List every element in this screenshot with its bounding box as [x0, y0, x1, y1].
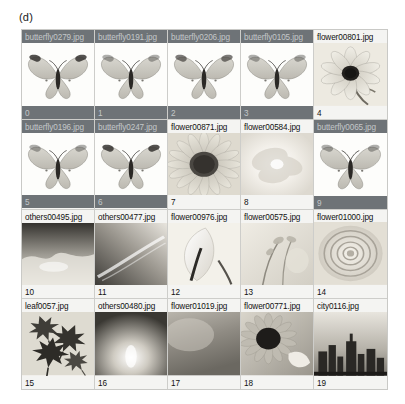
- thumbnail-index: 1: [95, 106, 167, 119]
- thumbnail-index: 15: [22, 376, 94, 389]
- thumbnail-index: 10: [22, 285, 94, 298]
- thumbnail-filename: flower00575.jpg: [241, 210, 313, 223]
- thumbnail-index: 6: [95, 195, 167, 208]
- thumbnail-cell[interactable]: others00495.jpg 10: [22, 210, 95, 300]
- thumbnail-index: 16: [95, 376, 167, 389]
- thumbnail-image-flower[interactable]: [314, 222, 387, 285]
- thumbnail-image-flower[interactable]: [241, 223, 313, 286]
- thumbnail-index: 3: [241, 106, 313, 119]
- thumbnail-cell[interactable]: flower00871.jpg 7: [168, 120, 241, 210]
- thumbnail-cell[interactable]: butterfly0247.jpg 6: [95, 120, 168, 210]
- figure-panel-d: (d) butterfly0279.jpg 0butterfly0191.jpg: [0, 0, 405, 404]
- thumbnail-cell[interactable]: city0116.jpg 19: [314, 299, 387, 389]
- thumbnail-index: 2: [168, 106, 240, 119]
- thumbnail-image-flower[interactable]: [241, 312, 313, 375]
- thumbnail-filename: butterfly0191.jpg: [95, 30, 167, 43]
- thumbnail-image-butterfly[interactable]: [314, 133, 387, 196]
- thumbnail-cell[interactable]: flower00584.jpg 8: [241, 120, 314, 210]
- thumbnail-cell[interactable]: butterfly0196.jpg 5: [22, 120, 95, 210]
- thumbnail-index: 9: [314, 196, 387, 209]
- thumbnail-image-butterfly[interactable]: [168, 43, 240, 106]
- thumbnail-cell[interactable]: others00480.jpg 16: [95, 299, 168, 389]
- thumbnail-index: 0: [22, 106, 94, 119]
- thumbnail-filename: flower00771.jpg: [241, 299, 313, 312]
- thumbnail-image-flower[interactable]: [168, 312, 240, 375]
- thumbnail-cell[interactable]: flower01000.jpg 14: [314, 210, 387, 300]
- thumbnail-image-butterfly[interactable]: [241, 43, 313, 106]
- thumbnail-cell[interactable]: leaf0057.jpg 15: [22, 299, 95, 389]
- thumbnail-cell[interactable]: others00477.jpg 11: [95, 210, 168, 300]
- thumbnail-filename: others00495.jpg: [22, 210, 94, 223]
- thumbnail-filename: others00480.jpg: [95, 299, 167, 312]
- thumbnail-image-butterfly[interactable]: [95, 43, 167, 106]
- thumbnail-image-butterfly[interactable]: [22, 133, 94, 196]
- thumbnail-filename: flower01019.jpg: [168, 299, 240, 312]
- thumbnail-image-butterfly[interactable]: [95, 133, 167, 196]
- thumbnail-index: 19: [314, 376, 387, 389]
- thumbnail-filename: leaf0057.jpg: [22, 299, 94, 312]
- thumbnail-cell[interactable]: flower01019.jpg 17: [168, 299, 241, 389]
- thumbnail-cell[interactable]: flower00575.jpg 13: [241, 210, 314, 300]
- thumbnail-image-flower[interactable]: [168, 223, 240, 286]
- thumbnail-cell[interactable]: flower00771.jpg 18: [241, 299, 314, 389]
- thumbnail-cell[interactable]: butterfly0065.jpg 9: [314, 120, 387, 210]
- thumbnail-image-butterfly[interactable]: [22, 43, 94, 106]
- thumbnail-filename: flower00976.jpg: [168, 210, 240, 223]
- thumbnail-filename: butterfly0196.jpg: [22, 120, 94, 133]
- thumbnail-filename: butterfly0105.jpg: [241, 30, 313, 43]
- thumbnail-index: 7: [168, 195, 240, 208]
- thumbnail-image-leaf[interactable]: [22, 312, 94, 375]
- thumbnail-filename: flower00801.jpg: [314, 30, 387, 43]
- thumbnail-index: 17: [168, 376, 240, 389]
- thumbnail-index: 14: [314, 285, 387, 298]
- thumbnail-index: 11: [95, 285, 167, 298]
- thumbnail-image-flower[interactable]: [241, 133, 313, 196]
- thumbnail-index: 4: [314, 106, 387, 119]
- thumbnail-filename: butterfly0279.jpg: [22, 30, 94, 43]
- thumbnail-index: 12: [168, 285, 240, 298]
- thumbnail-filename: butterfly0206.jpg: [168, 30, 240, 43]
- thumbnail-filename: butterfly0247.jpg: [95, 120, 167, 133]
- thumbnail-filename: flower00871.jpg: [168, 120, 240, 133]
- thumbnail-image-others[interactable]: [22, 223, 94, 286]
- thumbnail-image-flower[interactable]: [168, 133, 240, 196]
- thumbnail-index: 13: [241, 285, 313, 298]
- figure-caption: (d): [19, 11, 33, 23]
- thumbnail-cell[interactable]: butterfly0105.jpg 3: [241, 30, 314, 120]
- thumbnail-cell[interactable]: flower00976.jpg 12: [168, 210, 241, 300]
- thumbnail-image-city[interactable]: [314, 312, 387, 376]
- thumbnail-index: 18: [241, 376, 313, 389]
- thumbnail-image-others[interactable]: [95, 312, 167, 375]
- thumbnail-index: 5: [22, 195, 94, 208]
- thumbnail-cell[interactable]: butterfly0191.jpg 1: [95, 30, 168, 120]
- thumbnail-image-others[interactable]: [95, 223, 167, 286]
- thumbnail-image-flower[interactable]: [314, 43, 387, 106]
- thumbnail-cell[interactable]: flower00801.jpg 4: [314, 30, 387, 120]
- thumbnail-cell[interactable]: butterfly0279.jpg 0: [22, 30, 95, 120]
- thumbnail-filename: others00477.jpg: [95, 210, 167, 223]
- thumbnail-filename: flower01000.jpg: [314, 210, 387, 223]
- thumbnail-index: 8: [241, 195, 313, 208]
- thumbnail-filename: city0116.jpg: [314, 299, 387, 312]
- thumbnail-filename: flower00584.jpg: [241, 120, 313, 133]
- thumbnail-grid: butterfly0279.jpg 0butterfly0191.jpg: [21, 29, 388, 390]
- thumbnail-cell[interactable]: butterfly0206.jpg 2: [168, 30, 241, 120]
- thumbnail-filename: butterfly0065.jpg: [314, 120, 387, 133]
